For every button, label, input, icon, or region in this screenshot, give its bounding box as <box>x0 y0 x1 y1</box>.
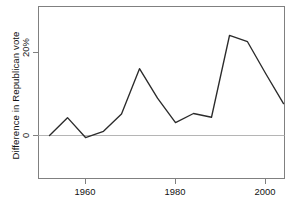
data-series-line <box>50 35 284 137</box>
plot-area <box>0 0 294 206</box>
plot-border <box>39 7 285 179</box>
chart-figure: Difference in Republican vote 20% 0 1960… <box>0 0 294 206</box>
